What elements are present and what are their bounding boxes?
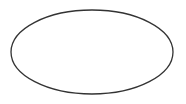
ellipse-shape: [11, 10, 173, 94]
diagram-canvas: [0, 0, 186, 104]
